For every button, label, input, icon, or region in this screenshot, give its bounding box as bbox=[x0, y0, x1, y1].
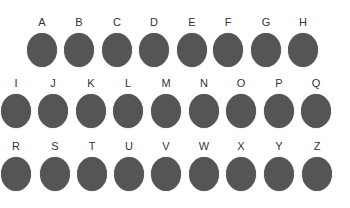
letter-item-p: P bbox=[263, 77, 295, 137]
letter-label: D bbox=[138, 16, 170, 28]
circle-icon bbox=[226, 94, 256, 128]
circle-icon bbox=[1, 157, 31, 191]
circle-icon bbox=[64, 33, 94, 67]
letter-label: V bbox=[150, 140, 182, 152]
letter-item-b: B bbox=[63, 16, 95, 76]
letter-label: O bbox=[225, 77, 257, 89]
letter-item-a: A bbox=[26, 16, 58, 76]
circle-icon bbox=[226, 157, 256, 191]
circle-icon bbox=[151, 157, 181, 191]
letter-label: R bbox=[0, 140, 32, 152]
circle-icon bbox=[251, 33, 281, 67]
letter-label: N bbox=[188, 77, 220, 89]
letter-label: F bbox=[212, 16, 244, 28]
letter-label: T bbox=[76, 140, 108, 152]
letter-item-r: R bbox=[0, 140, 32, 200]
letter-label: S bbox=[39, 140, 71, 152]
circle-icon bbox=[38, 94, 68, 128]
letter-item-z: Z bbox=[301, 140, 333, 200]
letter-label: G bbox=[250, 16, 282, 28]
letter-label: A bbox=[26, 16, 58, 28]
letter-label: E bbox=[176, 16, 208, 28]
circle-icon bbox=[40, 157, 70, 191]
letter-item-q: Q bbox=[300, 77, 332, 137]
letter-item-e: E bbox=[176, 16, 208, 76]
letter-item-h: H bbox=[287, 16, 319, 76]
letter-item-l: L bbox=[112, 77, 144, 137]
circle-icon bbox=[1, 94, 31, 128]
letter-label: W bbox=[188, 140, 220, 152]
letter-label: M bbox=[150, 77, 182, 89]
letter-item-c: C bbox=[101, 16, 133, 76]
circle-icon bbox=[102, 33, 132, 67]
circle-icon bbox=[76, 94, 106, 128]
circle-icon bbox=[151, 94, 181, 128]
letter-item-n: N bbox=[188, 77, 220, 137]
letter-item-u: U bbox=[113, 140, 145, 200]
letter-item-g: G bbox=[250, 16, 282, 76]
letter-item-f: F bbox=[212, 16, 244, 76]
letter-label: I bbox=[0, 77, 32, 89]
letter-label: L bbox=[112, 77, 144, 89]
letter-item-t: T bbox=[76, 140, 108, 200]
circle-icon bbox=[77, 157, 107, 191]
letter-item-v: V bbox=[150, 140, 182, 200]
letter-label: C bbox=[101, 16, 133, 28]
circle-icon bbox=[189, 157, 219, 191]
letter-label: P bbox=[263, 77, 295, 89]
letter-label: Z bbox=[301, 140, 333, 152]
circle-icon bbox=[302, 157, 332, 191]
circle-icon bbox=[264, 94, 294, 128]
letter-item-w: W bbox=[188, 140, 220, 200]
letter-item-x: X bbox=[225, 140, 257, 200]
circle-icon bbox=[264, 157, 294, 191]
circle-icon bbox=[288, 33, 318, 67]
letter-label: J bbox=[37, 77, 69, 89]
letter-item-i: I bbox=[0, 77, 32, 137]
letter-label: B bbox=[63, 16, 95, 28]
circle-icon bbox=[27, 33, 57, 67]
circle-icon bbox=[301, 94, 331, 128]
letter-label: Y bbox=[263, 140, 295, 152]
circle-icon bbox=[114, 157, 144, 191]
letter-item-m: M bbox=[150, 77, 182, 137]
letter-item-s: S bbox=[39, 140, 71, 200]
letter-label: H bbox=[287, 16, 319, 28]
circle-icon bbox=[177, 33, 207, 67]
circle-icon bbox=[213, 33, 243, 67]
circle-icon bbox=[189, 94, 219, 128]
letter-label: U bbox=[113, 140, 145, 152]
circle-icon bbox=[139, 33, 169, 67]
letter-item-o: O bbox=[225, 77, 257, 137]
letter-label: X bbox=[225, 140, 257, 152]
letter-label: K bbox=[75, 77, 107, 89]
letter-label: Q bbox=[300, 77, 332, 89]
letter-item-d: D bbox=[138, 16, 170, 76]
letter-item-k: K bbox=[75, 77, 107, 137]
letter-item-j: J bbox=[37, 77, 69, 137]
letter-item-y: Y bbox=[263, 140, 295, 200]
circle-icon bbox=[113, 94, 143, 128]
